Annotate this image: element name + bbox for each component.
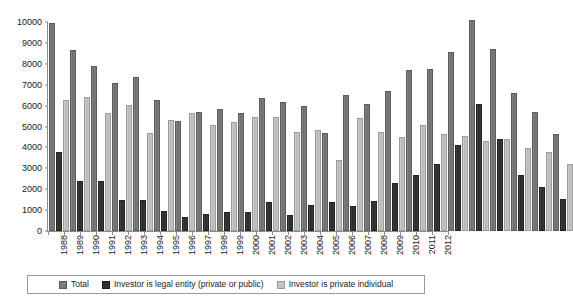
x-tick-label: 2002 bbox=[284, 235, 293, 255]
bar-individual bbox=[462, 136, 468, 231]
bar-group bbox=[237, 22, 258, 231]
x-tick-label: 2012 bbox=[444, 235, 453, 255]
bar-total bbox=[427, 69, 433, 231]
bar-individual bbox=[63, 100, 69, 231]
bar-individual bbox=[231, 122, 237, 231]
legend-label-legal: Investor is legal entity (private or pub… bbox=[114, 280, 264, 289]
bar-total bbox=[217, 109, 223, 231]
bar-group bbox=[363, 22, 384, 231]
x-tick-label: 2000 bbox=[252, 235, 261, 255]
x-tick-label: 1994 bbox=[156, 235, 165, 255]
x-tick-label: 2007 bbox=[364, 235, 373, 255]
bar-legal bbox=[266, 202, 272, 231]
bar-group bbox=[279, 22, 300, 231]
bar-total bbox=[343, 95, 349, 231]
bar-total bbox=[154, 100, 160, 231]
bar-legal bbox=[245, 212, 251, 231]
bar-individual bbox=[126, 105, 132, 231]
bar-group bbox=[510, 22, 531, 231]
bar-legal bbox=[140, 200, 146, 231]
legend-label-individual: Investor is private individual bbox=[289, 280, 393, 289]
bar-individual bbox=[252, 117, 258, 231]
bar-legal bbox=[392, 183, 398, 231]
bar-legal bbox=[203, 214, 209, 231]
bar-group bbox=[174, 22, 195, 231]
x-tick-label: 1998 bbox=[220, 235, 229, 255]
bar-legal bbox=[539, 187, 545, 231]
bar-individual bbox=[441, 134, 447, 231]
bar-legal bbox=[560, 199, 566, 231]
bar-legal bbox=[497, 139, 503, 231]
legend-item-total[interactable]: Total bbox=[59, 280, 89, 289]
legend-item-legal[interactable]: Investor is legal entity (private or pub… bbox=[102, 280, 264, 289]
x-tick-label: 1990 bbox=[92, 235, 101, 255]
bar-group bbox=[132, 22, 153, 231]
bar-group bbox=[195, 22, 216, 231]
bar-total bbox=[70, 50, 76, 231]
bar-legal bbox=[413, 175, 419, 231]
bar-total bbox=[532, 112, 538, 231]
bar-group bbox=[69, 22, 90, 231]
bar-legal bbox=[119, 200, 125, 231]
bar-legal bbox=[287, 215, 293, 231]
bar-individual bbox=[168, 120, 174, 231]
bar-legal bbox=[308, 205, 314, 231]
legend-item-individual[interactable]: Investor is private individual bbox=[277, 280, 393, 289]
x-tick-label: 1989 bbox=[76, 235, 85, 255]
legend-swatch-legal bbox=[102, 281, 110, 289]
bar-group bbox=[531, 22, 552, 231]
bar-legal bbox=[476, 104, 482, 231]
bar-legal bbox=[371, 201, 377, 231]
bar-legal bbox=[350, 206, 356, 231]
x-tick-label: 2010 bbox=[412, 235, 421, 255]
bar-group bbox=[552, 22, 573, 231]
bar-total bbox=[175, 121, 181, 231]
bar-total bbox=[280, 102, 286, 231]
bar-total bbox=[49, 23, 55, 231]
bar-group bbox=[384, 22, 405, 231]
x-tick-label: 2001 bbox=[268, 235, 277, 255]
bar-individual bbox=[399, 137, 405, 231]
bar-individual bbox=[483, 141, 489, 231]
bar-group bbox=[426, 22, 447, 231]
bar-group bbox=[405, 22, 426, 231]
x-tick-label: 2006 bbox=[348, 235, 357, 255]
x-tick-label: 1992 bbox=[124, 235, 133, 255]
bar-individual bbox=[567, 164, 573, 231]
bar-individual bbox=[189, 113, 195, 231]
bar-group bbox=[447, 22, 468, 231]
x-tick-label: 1996 bbox=[188, 235, 197, 255]
bar-legal bbox=[434, 164, 440, 231]
bar-group bbox=[342, 22, 363, 231]
bar-total bbox=[259, 98, 265, 231]
bar-legal bbox=[98, 181, 104, 231]
bar-group bbox=[468, 22, 489, 231]
x-axis-tick-labels: 1988198919901991199219931994199519961997… bbox=[48, 235, 448, 271]
x-tick-label: 1988 bbox=[60, 235, 69, 255]
bar-total bbox=[301, 106, 307, 231]
bar-group bbox=[48, 22, 69, 231]
bar-total bbox=[448, 52, 454, 231]
bar-total bbox=[322, 133, 328, 231]
bar-total bbox=[490, 49, 496, 231]
x-tick-label: 2009 bbox=[396, 235, 405, 255]
x-tick-label: 1999 bbox=[236, 235, 245, 255]
bar-group bbox=[258, 22, 279, 231]
bar-group bbox=[489, 22, 510, 231]
bar-individual bbox=[147, 133, 153, 231]
bar-total bbox=[133, 77, 139, 231]
y-tick-label: 10000 bbox=[17, 18, 48, 27]
bar-legal bbox=[161, 211, 167, 231]
bar-legal bbox=[182, 217, 188, 231]
bar-individual bbox=[273, 117, 279, 231]
bar-legal bbox=[329, 202, 335, 231]
bar-individual bbox=[336, 160, 342, 231]
bar-individual bbox=[84, 97, 90, 231]
legend-swatch-total bbox=[59, 281, 67, 289]
x-tick-label: 2003 bbox=[300, 235, 309, 255]
x-tick-label: 1997 bbox=[204, 235, 213, 255]
bar-group bbox=[90, 22, 111, 231]
bar-total bbox=[469, 20, 475, 231]
bar-group bbox=[300, 22, 321, 231]
